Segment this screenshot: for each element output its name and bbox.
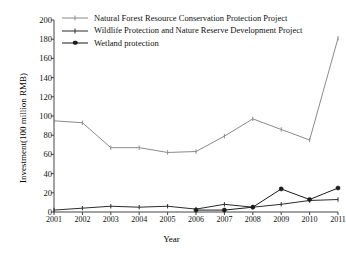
legend-item-label: Natural Forest Resource Conservation Pro… (94, 12, 287, 24)
legend-item-label: Wildlife Protection and Nature Reserve D… (94, 24, 302, 36)
legend-marker-icon (62, 26, 88, 36)
legend-item[interactable]: Natural Forest Resource Conservation Pro… (62, 12, 302, 24)
legend-item[interactable]: Wildlife Protection and Nature Reserve D… (62, 24, 302, 36)
legend-marker-icon (62, 13, 88, 23)
legend-marker-icon (62, 38, 88, 48)
legend-item[interactable]: Wetland protection (62, 37, 302, 49)
legend-item-label: Wetland protection (94, 37, 159, 49)
chart-legend: Natural Forest Resource Conservation Pro… (62, 12, 302, 49)
